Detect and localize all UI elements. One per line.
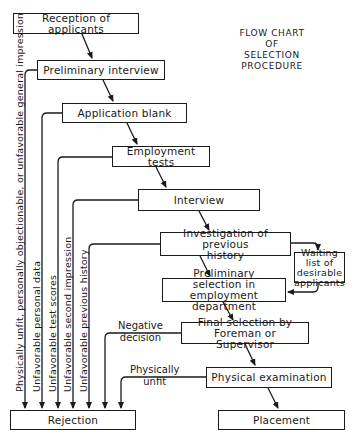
box-interview: Interview	[138, 189, 260, 211]
box-preliminary-interview: Preliminary interview	[37, 60, 165, 80]
label-reason-previous-history: Unfavorable previous history	[78, 249, 89, 392]
box-physical-examination: Physical examination	[206, 367, 332, 388]
box-preliminary-selection: Preliminary selection in employment depa…	[162, 278, 286, 302]
flow-chart: FLOW CHART OF SELECTION PROCEDURE Recept…	[0, 0, 356, 439]
label-reason-personal-data: Unfavorable personal data	[31, 261, 42, 392]
label-reason-general-impression: Physically unfit, personally objectionab…	[14, 13, 25, 392]
label-reason-second-impression: Unfavorable second impression	[62, 237, 73, 392]
box-rejection: Rejection	[10, 410, 136, 430]
box-waiting-list: Waiting list of desirable applicants	[294, 252, 345, 283]
box-final-selection: Final selection by Foreman or Supervisor	[181, 322, 309, 344]
box-placement: Placement	[218, 410, 345, 430]
label-negative-decision: Negative decision	[118, 320, 163, 344]
box-application-blank: Application blank	[62, 103, 187, 123]
box-reception: Reception of applicants	[13, 13, 139, 34]
box-employment-tests: Employment tests	[112, 146, 210, 167]
chart-title: FLOW CHART OF SELECTION PROCEDURE	[212, 28, 332, 72]
box-investigation: Investigation of previous history	[160, 232, 291, 256]
label-physically-unfit: Physically unfit	[130, 364, 179, 388]
label-reason-test-scores: Unfavorable test scores	[47, 275, 58, 392]
